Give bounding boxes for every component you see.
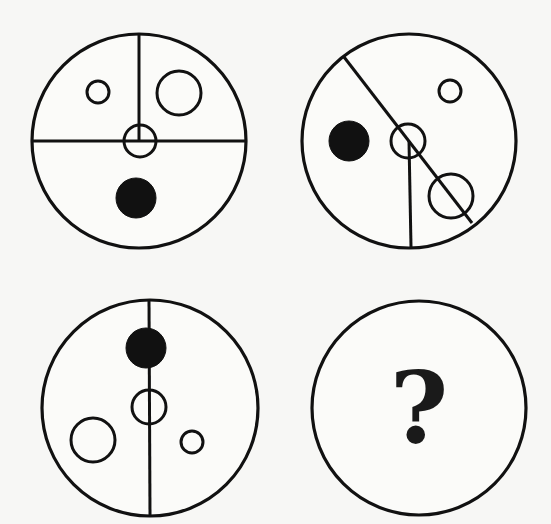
panel-1 bbox=[32, 34, 246, 248]
filled-circle bbox=[329, 121, 369, 161]
puzzle-canvas: ? bbox=[0, 0, 551, 524]
question-mark: ? bbox=[390, 349, 449, 467]
panel-4: ? bbox=[312, 301, 526, 515]
filled-circle bbox=[126, 328, 166, 368]
panel-2 bbox=[302, 34, 516, 248]
panel-3 bbox=[42, 300, 258, 516]
filled-circle bbox=[116, 178, 156, 218]
